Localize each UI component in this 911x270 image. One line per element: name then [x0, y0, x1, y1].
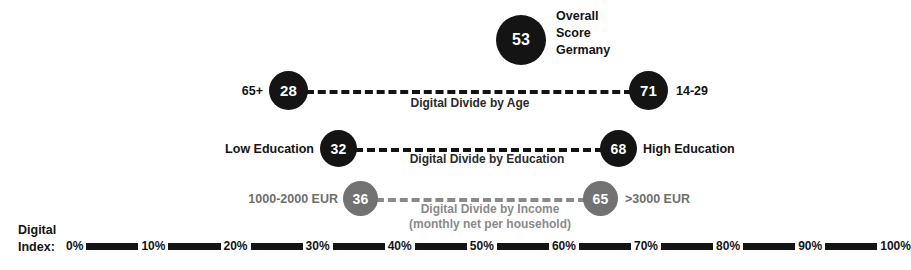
axis-tick: 90% [798, 239, 822, 253]
income-left-bubble: 36 [343, 181, 378, 216]
overall-caption-line-3: Germany [556, 42, 610, 59]
axis-tick: 30% [306, 239, 330, 253]
axis-segment [251, 243, 303, 250]
axis-tick: 20% [224, 239, 248, 253]
axis-segment [661, 243, 713, 250]
axis-segment [415, 243, 467, 250]
education-row-caption: Digital Divide by Education [367, 152, 607, 167]
axis-segment [333, 243, 385, 250]
axis-tick: 10% [141, 239, 165, 253]
income-caption-line-2: (monthly net per household) [375, 217, 605, 232]
axis-segment [743, 243, 795, 250]
education-left-bubble: 32 [320, 130, 357, 167]
axis-tick: 50% [470, 239, 494, 253]
overall-caption-line-2: Score [556, 25, 610, 42]
digital-index-chart: 53 Overall Score Germany 65+ 28 71 14-29… [0, 0, 911, 270]
overall-score-bubble: 53 [496, 15, 546, 65]
axis-segment [168, 243, 220, 250]
education-right-label: High Education [643, 142, 735, 156]
overall-caption-line-1: Overall [556, 8, 610, 25]
axis-segment [579, 243, 631, 250]
axis-tick: 0% [66, 239, 83, 253]
age-row-caption: Digital Divide by Age [370, 96, 570, 111]
age-left-label: 65+ [195, 84, 263, 98]
connector-line-age [306, 90, 632, 94]
axis-title-line-2: Index: [18, 239, 56, 256]
overall-score-caption: Overall Score Germany [556, 8, 610, 59]
axis-segment [86, 243, 138, 250]
income-row-caption: Digital Divide by Income (monthly net pe… [375, 202, 605, 232]
axis-tick: 70% [634, 239, 658, 253]
axis-tick: 100% [880, 239, 911, 253]
axis-tick: 40% [388, 239, 412, 253]
age-right-label: 14-29 [676, 84, 708, 98]
axis-tick: 80% [716, 239, 740, 253]
axis-tick: 60% [552, 239, 576, 253]
digital-index-axis: 0% 10% 20% 30% 40% 50% 60% 70% 80% 90% 1… [66, 236, 911, 256]
axis-title-line-1: Digital [18, 222, 56, 239]
axis-segment [497, 243, 549, 250]
axis-title: Digital Index: [18, 222, 56, 256]
income-caption-line-1: Digital Divide by Income [375, 202, 605, 217]
age-left-bubble: 28 [269, 71, 308, 110]
axis-segment [825, 243, 877, 250]
age-right-bubble: 71 [629, 71, 668, 110]
income-left-label: 1000-2000 EUR [214, 192, 338, 206]
education-left-label: Low Education [196, 142, 314, 156]
income-right-label: >3000 EUR [625, 192, 690, 206]
